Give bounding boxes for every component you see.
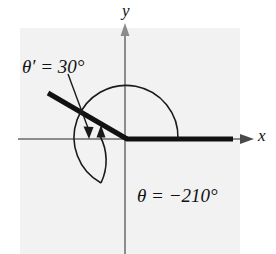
diagram-canvas xyxy=(0,0,276,254)
x-axis-arrowhead xyxy=(240,134,254,144)
reference-angle-label: θ′ = 30° xyxy=(22,57,84,76)
y-axis-label: y xyxy=(122,2,130,19)
x-axis-label: x xyxy=(258,127,266,144)
angle-diagram-figure: y x θ′ = 30° θ = −210° xyxy=(0,0,276,254)
angle-label: θ = −210° xyxy=(137,186,218,205)
